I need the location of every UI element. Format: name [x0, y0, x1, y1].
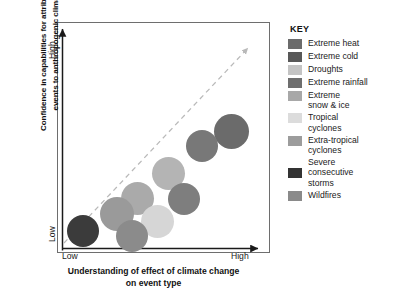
legend-item-extra-tropical-cyclones: Extra-tropical cyclones — [288, 135, 393, 155]
x-axis-title-line2: on event type — [36, 278, 271, 290]
legend-item-extreme-heat: Extreme heat — [288, 38, 393, 49]
legend-label-line1: Extreme heat — [308, 38, 359, 48]
bubble-wildfires — [116, 220, 148, 252]
legend-label-line1: Droughts — [308, 64, 343, 74]
legend-label: Droughts — [308, 64, 343, 74]
legend-label: Extreme heat — [308, 38, 359, 48]
legend-swatch — [288, 113, 302, 123]
y-axis-title-line1: Confidence in capabilities for attributi… — [39, 0, 48, 131]
x-axis-title-line1: Understanding of effect of climate chang… — [68, 266, 239, 276]
legend-item-tropical-cyclones: Tropical cyclones — [288, 112, 393, 132]
legend-swatch — [288, 91, 302, 101]
chart-root: Confidence in capabilities for attributi… — [0, 0, 407, 295]
bubble-extreme-heat — [214, 114, 249, 149]
legend-label: Severe consecutive storms — [308, 157, 353, 188]
legend-label-line2: consecutive — [308, 167, 353, 177]
legend-swatch — [288, 65, 302, 75]
legend-label: Wildfires — [308, 190, 341, 200]
y-axis-title-line2: events to anthropogenic climate change — [50, 0, 62, 150]
legend-item-extreme-cold: Extreme cold — [288, 51, 393, 62]
legend-swatch — [288, 39, 302, 49]
legend-label: Extreme cold — [308, 51, 358, 61]
legend-swatch — [288, 191, 302, 201]
bubble-extreme-rainfall — [168, 183, 200, 215]
legend-label-line2: snow & ice — [308, 100, 350, 110]
legend-item-wildfires: Wildfires — [288, 190, 393, 201]
legend-label-line2: cyclones — [308, 145, 341, 155]
credit-text: Credit: Otto, Harrington & Ottenburghs (… — [397, 0, 407, 58]
x-axis-title: Understanding of effect of climate chang… — [36, 266, 271, 289]
x-axis-high-label: High — [231, 251, 249, 261]
legend-item-droughts: Droughts — [288, 64, 393, 75]
legend-label-line3: storms — [308, 178, 334, 188]
legend-label-line1: Tropical — [308, 112, 338, 122]
legend-swatch — [288, 52, 302, 62]
legend: KEY Extreme heat Extreme cold Droughts E… — [288, 24, 393, 203]
bubble-extreme-cold — [186, 130, 218, 162]
legend-label-line1: Wildfires — [308, 190, 341, 200]
legend-label-line1: Extreme rainfall — [308, 77, 368, 87]
legend-label: Tropical cyclones — [308, 112, 341, 132]
legend-item-extreme-rainfall: Extreme rainfall — [288, 77, 393, 88]
y-axis-low-label: Low — [47, 226, 57, 242]
legend-swatch — [288, 136, 302, 146]
legend-swatch — [288, 168, 302, 178]
legend-item-extreme-snow-ice: Extreme snow & ice — [288, 90, 393, 110]
legend-title: KEY — [290, 24, 393, 34]
legend-label-line1: Extra-tropical — [308, 135, 359, 145]
legend-label-line1: Extreme — [308, 90, 340, 100]
legend-label-line2: cyclones — [308, 123, 341, 133]
bubble-severe-consecutive-storms — [67, 215, 99, 247]
y-axis-high-label: High — [47, 41, 57, 59]
legend-label: Extreme rainfall — [308, 77, 368, 87]
x-axis-low-label: Low — [62, 251, 78, 261]
legend-label: Extra-tropical cyclones — [308, 135, 359, 155]
legend-label-line1: Extreme cold — [308, 51, 358, 61]
legend-swatch — [288, 78, 302, 88]
legend-label-line1: Severe — [308, 157, 335, 167]
legend-item-severe-consecutive-storms: Severe consecutive storms — [288, 157, 393, 188]
legend-label: Extreme snow & ice — [308, 90, 350, 110]
y-axis-title: Confidence in capabilities for attributi… — [38, 0, 72, 150]
